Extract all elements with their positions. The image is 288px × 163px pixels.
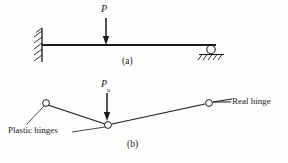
panel-a-caption: (a): [122, 57, 133, 67]
load-label-p: P: [101, 4, 107, 14]
fixed-support-hatching: [34, 28, 42, 61]
leader-to-left-hinge: [27, 106, 44, 124]
beam-mechanism-figure: P Pu (a) (b) Real hinge Plastic hinges: [0, 0, 288, 163]
leader-to-center-hinge: [72, 127, 105, 132]
panel-b-caption: (b): [127, 140, 138, 150]
load-label-pu-subscript: u: [107, 87, 110, 93]
link-center-to-right: [112, 104, 205, 124]
link-left-to-center: [48, 105, 105, 124]
roller-support: [198, 45, 224, 60]
mechanism-links: [48, 99, 232, 124]
plastic-hinges-label: Plastic hinges: [8, 126, 58, 135]
plastic-hinge-left-icon: [43, 100, 50, 107]
load-arrow-pu: [104, 93, 110, 121]
load-arrow-p: [103, 18, 109, 45]
real-hinge-icon: [206, 100, 213, 107]
load-label-pu: Pu: [101, 79, 110, 91]
real-hinge-label: Real hinge: [232, 97, 271, 106]
figure-canvas: [0, 0, 288, 163]
plastic-hinge-center-icon: [105, 122, 112, 129]
